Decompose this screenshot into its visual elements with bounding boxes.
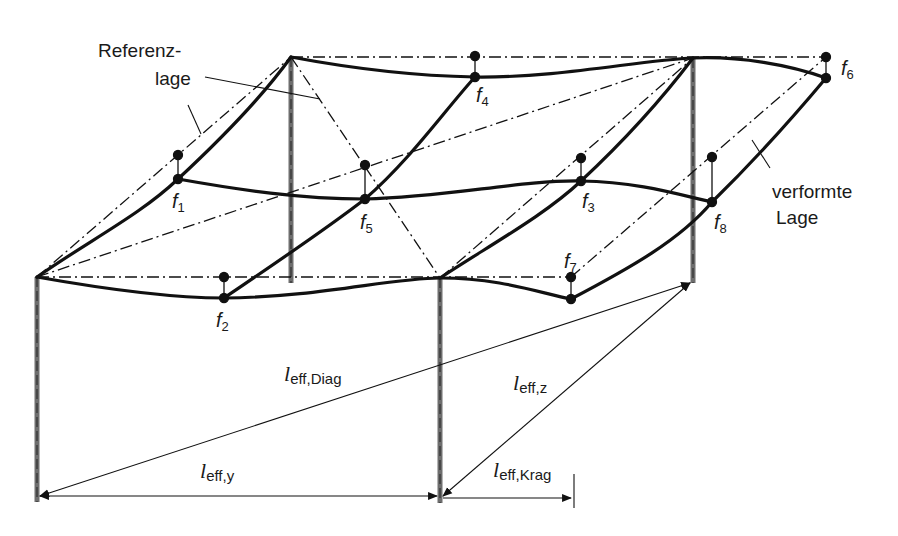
marker-f3 (577, 154, 586, 186)
deformed-label-line1: verformte (772, 181, 852, 202)
marker-f8 (708, 153, 717, 207)
marker-f5 (361, 161, 370, 204)
reference-label-line1: Referenz- (98, 40, 181, 61)
label-l-eff-krag: leff,Krag (493, 457, 551, 483)
dim-eff-z (443, 283, 690, 496)
label-f6: f6 (841, 57, 854, 82)
dimension-lines (40, 283, 690, 508)
labels: Referenz- lage verformte Lage f1 f2 f3 f… (98, 40, 854, 484)
label-f1: f1 (172, 190, 185, 215)
label-l-eff-y: leff,y (200, 458, 235, 484)
label-l-eff-z: leff,z (513, 370, 547, 396)
deformed-position (37, 57, 826, 299)
marker-f4 (471, 52, 480, 82)
marker-f2 (220, 273, 229, 303)
marker-f6 (822, 53, 831, 83)
structure-diagram: Referenz- lage verformte Lage f1 f2 f3 f… (0, 0, 898, 536)
label-f4: f4 (476, 84, 489, 109)
label-f7: f7 (564, 250, 577, 275)
dim-eff-diag (40, 283, 690, 496)
label-f3: f3 (582, 190, 595, 215)
marker-f7 (567, 273, 576, 304)
deformed-label-line2: Lage (776, 207, 818, 228)
reference-label-line2: lage (155, 68, 191, 89)
label-l-eff-diag: leff,Diag (284, 361, 342, 387)
label-f5: f5 (360, 211, 373, 236)
label-f8: f8 (714, 211, 727, 236)
columns (37, 57, 693, 503)
label-f2: f2 (216, 309, 229, 334)
marker-f1 (174, 151, 183, 184)
reference-position (37, 57, 826, 278)
